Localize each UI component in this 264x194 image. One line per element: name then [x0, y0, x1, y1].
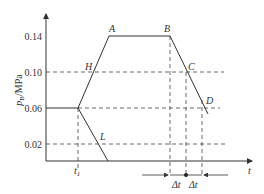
tick-014: 0.14 [25, 31, 43, 42]
rise-curve [46, 36, 208, 114]
point-h-label: H [84, 61, 93, 72]
x-axis-label: t [248, 165, 251, 176]
point-l-label: L [99, 131, 106, 142]
delta-t-2: Δt [188, 179, 198, 190]
grid-dashes [46, 36, 228, 176]
delta-t-1: Δt [171, 179, 181, 190]
pressure-time-diagram: 0.14 0.10 0.06 0.02 pB/MPa A B C D H L t… [0, 0, 264, 194]
y-axis-label: pB/MPa [13, 74, 26, 107]
t1-label: t1 [74, 165, 80, 178]
svg-text:pB/MPa: pB/MPa [13, 74, 26, 107]
tick-010: 0.10 [25, 67, 43, 78]
point-c-label: C [188, 61, 195, 72]
point-d-label: D [205, 95, 214, 106]
point-b-label: B [164, 23, 170, 34]
point-a-label: A [108, 23, 116, 34]
tick-002: 0.02 [25, 139, 43, 150]
tick-006: 0.06 [25, 103, 43, 114]
